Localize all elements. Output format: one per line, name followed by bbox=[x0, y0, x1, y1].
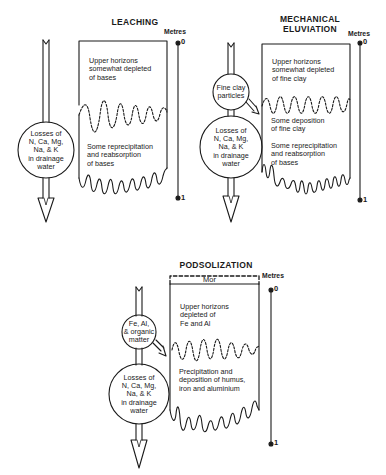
dashed-horizon-boundary-podsolization bbox=[172, 339, 259, 361]
scale-bottom-leaching: 1 bbox=[181, 193, 185, 202]
scale-top-eluviation: 0 bbox=[363, 37, 367, 46]
upper-horizon-text-podsolization: Upper horizons depleted of Fe and Al bbox=[180, 303, 229, 328]
bottom-boundary-eluviation bbox=[262, 165, 350, 195]
scale-label-eluviation: Metres bbox=[348, 30, 370, 37]
scale-label-leaching: Metres bbox=[164, 28, 186, 35]
upper-horizon-text-eluviation: Upper horizons somewhat depleted of fine… bbox=[272, 58, 334, 83]
panel-title-podsolization: PODSOLIZATION bbox=[172, 260, 260, 270]
lower-horizon-text-eluviation: Some reprecipitation and reabsorption of… bbox=[271, 142, 337, 167]
losses-text-leaching: Losses of N, Ca, Mg, Na, & K in drainage… bbox=[18, 130, 74, 171]
scale-top-podsolization: 0 bbox=[274, 284, 278, 293]
upper-horizon-text-leaching: Upper horizons somewhat depleted of base… bbox=[89, 57, 151, 82]
lower-horizon-text-leaching: Some reprecipitation and reabsorption of… bbox=[87, 143, 153, 168]
scale-top-leaching: 0 bbox=[181, 37, 185, 46]
scale-label-podsolization: Metres bbox=[262, 272, 284, 279]
bottom-boundary-podsolization bbox=[170, 401, 259, 432]
losses-text-eluviation: Losses of N, Ca, Mg, Na, & K in drainage… bbox=[203, 127, 259, 168]
scale-bottom-podsolization: 1 bbox=[274, 438, 278, 447]
middle-horizon-text-eluviation: Some deposition of fine clay bbox=[271, 117, 325, 134]
dashed-horizon-boundary-eluviation bbox=[262, 97, 350, 114]
fine-clay-text: Fine clay particles bbox=[211, 84, 251, 100]
dashed-horizon-boundary-leaching bbox=[79, 101, 167, 132]
panel-title-leaching: LEACHING bbox=[100, 17, 170, 27]
lower-horizon-text-podsolization: Precipitation and deposition of humus, i… bbox=[179, 368, 245, 393]
panel-title-eluviation: MECHANICAL ELUVIATION bbox=[270, 14, 350, 34]
fe-al-text: Fe, Al, & organic matter bbox=[118, 320, 160, 345]
bottom-boundary-leaching bbox=[79, 168, 167, 194]
mor-label: Mor bbox=[203, 276, 216, 284]
losses-text-podsolization: Losses of N, Ca, Mg, Na, & K in drainage… bbox=[111, 374, 167, 415]
scale-bottom-eluviation: 1 bbox=[363, 195, 367, 204]
fine-clay-arrow bbox=[246, 99, 259, 114]
